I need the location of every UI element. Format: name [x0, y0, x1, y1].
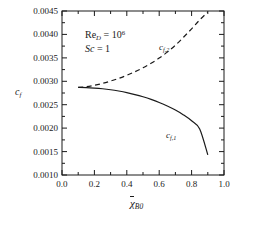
y-tick-label-1: 0.0040	[12, 29, 58, 39]
schmidt-value: = 1	[94, 43, 110, 54]
y-tick-label-6: 0.0015	[12, 147, 58, 157]
reynolds-symbol: Re	[85, 29, 96, 40]
x-tick-label-0: 0.0	[47, 179, 76, 189]
cf2-subscript: f,2	[163, 47, 169, 53]
x-tick-label-2: 0.4	[112, 179, 141, 189]
y-axis-title-subscript: f	[19, 91, 21, 98]
reynolds-value: = 10	[101, 29, 122, 40]
curve-label-cf2: cf,2	[159, 42, 169, 53]
y-tick-label-5: 0.0020	[12, 123, 58, 133]
x-tick-label-5: 1.0	[210, 179, 239, 189]
curve-label-cf1: cf,1	[166, 130, 176, 141]
y-axis-title: cf	[15, 86, 21, 98]
cf1-subscript: f,1	[170, 135, 176, 141]
x-axis-title-symbol: χ	[130, 197, 135, 209]
x-tick-label-1: 0.2	[80, 179, 109, 189]
y-tick-label-2: 0.0035	[12, 53, 58, 63]
annotation-schmidt-number: Sc = 1	[85, 43, 110, 54]
x-tick-label-3: 0.6	[145, 179, 174, 189]
x-axis-title-subscript: B0	[135, 202, 143, 211]
figure-container: 0.0045 0.0040 0.0035 0.0030 0.0025 0.002…	[0, 0, 254, 229]
reynolds-exponent: 6	[122, 29, 125, 36]
x-axis-title: χB0	[130, 197, 143, 211]
y-tick-label-4: 0.0025	[12, 100, 58, 110]
x-tick-label-4: 0.8	[177, 179, 206, 189]
y-tick-label-0: 0.0045	[12, 6, 58, 16]
data-curve-cf1	[78, 87, 208, 154]
annotation-reynolds-number: ReD = 106	[85, 29, 125, 41]
y-tick-label-3: 0.0030	[12, 76, 58, 86]
